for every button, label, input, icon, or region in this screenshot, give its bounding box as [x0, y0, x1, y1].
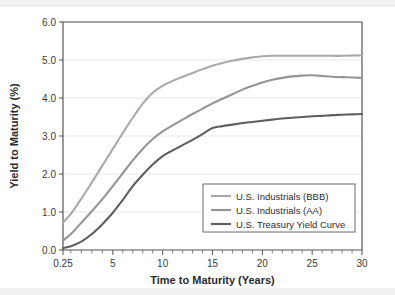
y-tick-labels-group: 0.01.02.03.04.05.06.0	[42, 17, 56, 256]
yield-curve-chart: 0.01.02.03.04.05.06.0 0.2551015202530 Ti…	[0, 0, 395, 295]
x-tick-label: 10	[157, 258, 169, 269]
figure-canvas: 0.01.02.03.04.05.06.0 0.2551015202530 Ti…	[0, 0, 395, 295]
y-tick-label: 0.0	[42, 245, 56, 256]
x-tick-label: 20	[257, 258, 269, 269]
legend-label-1: U.S. Industrials (AA)	[236, 205, 322, 216]
y-tick-label: 6.0	[42, 17, 56, 28]
x-tick-label: 30	[356, 258, 368, 269]
x-tick-label: 25	[307, 258, 319, 269]
x-tick-label: 5	[110, 258, 116, 269]
y-tick-label: 5.0	[42, 55, 56, 66]
x-tick-label: 15	[207, 258, 219, 269]
y-tick-label: 3.0	[42, 131, 56, 142]
y-tick-label: 2.0	[42, 169, 56, 180]
x-axis-title: Time to Maturity (Years)	[150, 274, 275, 286]
y-tick-label: 4.0	[42, 93, 56, 104]
chart-legend: U.S. Industrials (BBB)U.S. Industrials (…	[203, 184, 355, 232]
legend-label-0: U.S. Industrials (BBB)	[236, 191, 328, 202]
y-tick-label: 1.0	[42, 207, 56, 218]
legend-label-2: U.S. Treasury Yield Curve	[236, 219, 345, 230]
y-axis-title: Yield to Maturity (%)	[8, 83, 20, 189]
x-axis-ticks-group	[63, 250, 362, 255]
x-tick-label: 0.25	[53, 258, 73, 269]
x-tick-labels-group: 0.2551015202530	[53, 258, 368, 269]
